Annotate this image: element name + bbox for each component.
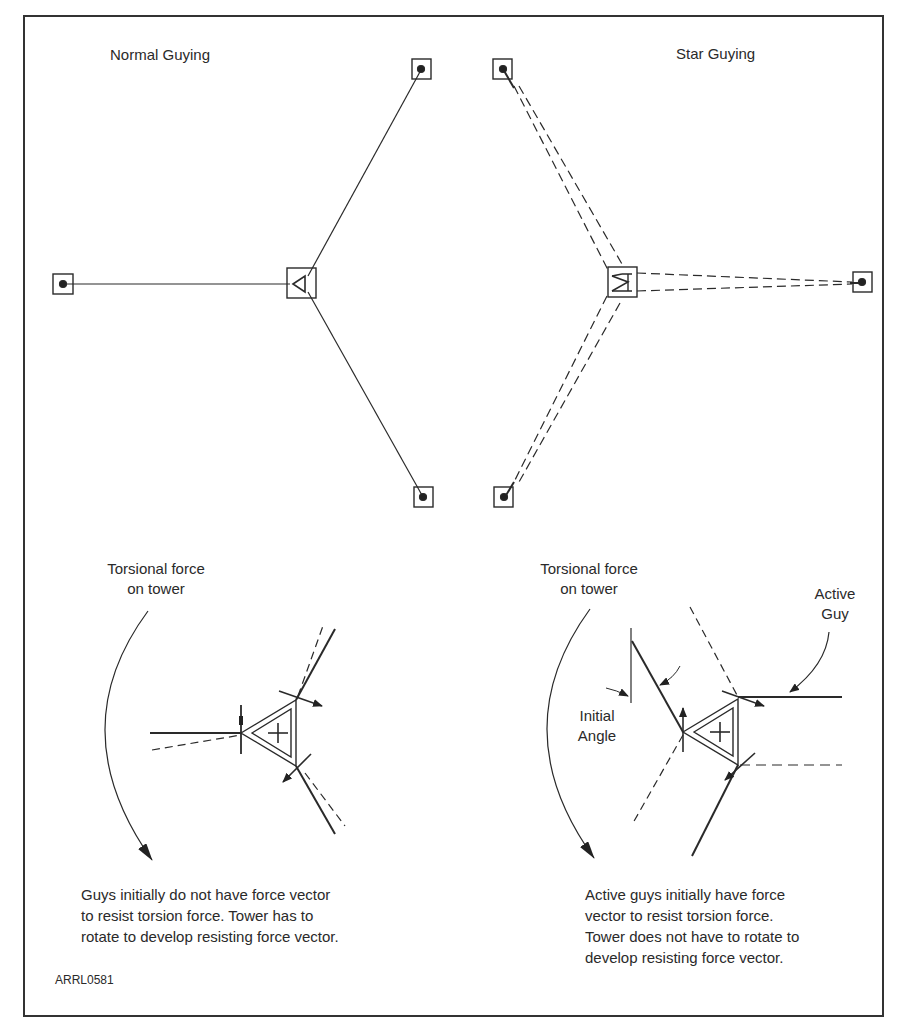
star-torsion-label: Torsional force on tower bbox=[519, 559, 659, 599]
normal-guying-caption: Guys initially do not have force vector … bbox=[81, 884, 339, 947]
figure-id-code: ARRL0581 bbox=[55, 973, 114, 987]
caption-line: rotate to develop resisting force vector… bbox=[81, 926, 339, 947]
initial-angle-line: Angle bbox=[562, 726, 632, 746]
anchor-icon bbox=[414, 487, 433, 507]
anchor-icon bbox=[412, 59, 431, 79]
torsion-arrow-icon bbox=[105, 611, 152, 860]
torsion-label-line: Torsional force bbox=[519, 559, 659, 579]
initial-angle-line: Initial bbox=[562, 706, 632, 726]
star-guying-plan bbox=[493, 59, 872, 507]
star-guying-caption: Active guys initially have force vector … bbox=[585, 884, 799, 968]
normal-guying-plan bbox=[53, 59, 433, 507]
active-guy-line: Active bbox=[800, 584, 870, 604]
normal-guying-title: Normal Guying bbox=[110, 46, 210, 63]
torsion-label-line: Torsional force bbox=[86, 559, 226, 579]
caption-line: Guys initially do not have force vector bbox=[81, 884, 339, 905]
caption-line: develop resisting force vector. bbox=[585, 947, 799, 968]
anchor-icon bbox=[493, 59, 512, 79]
active-guy-line: Guy bbox=[800, 604, 870, 624]
star-guying-title: Star Guying bbox=[676, 45, 755, 62]
tower-icon bbox=[287, 268, 316, 298]
caption-line: Tower does not have to rotate to bbox=[585, 926, 799, 947]
caption-line: vector to resist torsion force. bbox=[585, 905, 799, 926]
caption-line: Active guys initially have force bbox=[585, 884, 799, 905]
torsion-label-line: on tower bbox=[519, 579, 659, 599]
tower-icon bbox=[608, 267, 637, 297]
normal-torsion-detail bbox=[105, 611, 345, 860]
figure-border bbox=[24, 16, 883, 1016]
torsion-label-line: on tower bbox=[86, 579, 226, 599]
caption-line: to resist torsion force. Tower has to bbox=[81, 905, 339, 926]
active-guy-label: Active Guy bbox=[800, 584, 870, 624]
guying-diagram bbox=[0, 0, 908, 1033]
initial-angle-label: Initial Angle bbox=[562, 706, 632, 746]
normal-torsion-label: Torsional force on tower bbox=[86, 559, 226, 599]
